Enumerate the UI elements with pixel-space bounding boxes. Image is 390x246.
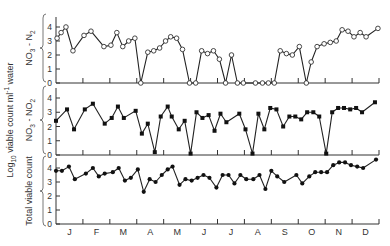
y-tick-label: 2 <box>47 122 52 132</box>
data-point <box>307 174 311 178</box>
y-tick-label: 3 <box>47 36 52 46</box>
month-label: D <box>362 227 369 237</box>
data-point <box>187 81 192 86</box>
y-tick-label: 0 <box>47 150 52 160</box>
data-point <box>257 173 261 177</box>
data-point <box>83 107 87 111</box>
data-point <box>263 187 267 191</box>
data-point <box>200 116 204 120</box>
data-point <box>136 167 140 171</box>
data-point <box>211 49 216 54</box>
data-point <box>348 107 352 111</box>
data-point <box>180 47 185 52</box>
data-point <box>293 115 297 119</box>
data-point <box>262 127 266 131</box>
chart: 01234NO3 - N201234NO3 - NO201234Total vi… <box>0 0 390 246</box>
data-point <box>330 110 334 114</box>
data-point <box>213 129 217 133</box>
data-point <box>207 176 211 180</box>
data-point <box>342 106 346 110</box>
data-point <box>349 163 353 167</box>
y-tick-label: 0 <box>47 78 52 88</box>
data-point <box>360 110 364 114</box>
data-point <box>195 110 199 114</box>
data-point <box>340 28 345 33</box>
data-point <box>120 44 125 49</box>
data-point <box>103 172 107 176</box>
data-point <box>174 36 179 41</box>
month-label: J <box>202 227 207 237</box>
y-tick-label: 4 <box>47 93 52 103</box>
month-label: A <box>255 227 261 237</box>
data-point <box>201 173 205 177</box>
data-point <box>294 173 298 177</box>
data-point <box>115 30 120 35</box>
data-point <box>268 106 272 110</box>
data-point <box>241 81 246 86</box>
data-point <box>337 160 341 164</box>
data-point <box>84 172 88 176</box>
data-point <box>324 152 328 156</box>
data-point <box>343 160 347 164</box>
data-point <box>183 119 187 123</box>
data-point <box>71 49 76 54</box>
data-point <box>243 127 247 131</box>
data-point <box>145 50 150 55</box>
y-tick-label: 4 <box>47 163 52 173</box>
y-tick-label: 0 <box>47 219 52 229</box>
data-point <box>170 165 174 169</box>
data-point <box>214 186 218 190</box>
data-point <box>166 167 170 171</box>
data-point <box>223 81 228 86</box>
data-point <box>229 53 234 58</box>
data-point <box>315 44 320 49</box>
data-point <box>82 33 87 38</box>
data-point <box>64 25 69 30</box>
data-point <box>354 106 358 110</box>
data-point <box>54 119 58 123</box>
data-point <box>189 152 193 156</box>
data-point <box>278 49 283 54</box>
data-point <box>55 36 60 41</box>
data-point <box>102 44 107 49</box>
data-point <box>133 36 138 41</box>
data-point <box>116 105 120 109</box>
data-point <box>355 165 359 169</box>
data-point <box>311 110 315 114</box>
y-tick-label: 1 <box>47 136 52 146</box>
chart-svg: 01234NO3 - N201234NO3 - NO201234Total vi… <box>0 0 390 246</box>
data-point <box>319 170 323 174</box>
data-point <box>97 174 101 178</box>
data-point <box>89 29 94 34</box>
data-point <box>140 132 144 136</box>
data-point <box>282 180 286 184</box>
data-point <box>221 173 225 177</box>
y-tick-label: 3 <box>47 177 52 187</box>
y-tick-label: 4 <box>47 22 52 32</box>
data-point <box>325 170 329 174</box>
data-point <box>148 177 152 181</box>
data-point <box>284 51 289 56</box>
data-point <box>177 127 181 131</box>
data-point <box>331 163 335 167</box>
panel-y-label: NO3 - N2 <box>24 30 36 66</box>
data-point <box>352 35 357 40</box>
panel-3: 01234Total viable count <box>24 156 379 229</box>
data-point <box>358 30 363 35</box>
data-point <box>129 176 133 180</box>
y-tick-label: 3 <box>47 107 52 117</box>
data-point <box>199 49 204 54</box>
panel-brace <box>40 14 46 82</box>
panel-brace <box>40 156 46 226</box>
data-point <box>253 81 258 86</box>
data-point <box>183 177 187 181</box>
data-point <box>153 150 157 154</box>
data-point <box>163 39 168 44</box>
data-point <box>190 179 194 183</box>
data-point <box>374 158 378 162</box>
data-point <box>195 176 199 180</box>
data-point <box>65 107 69 111</box>
month-label: A <box>147 227 153 237</box>
data-point <box>235 81 240 86</box>
data-point <box>73 177 77 181</box>
